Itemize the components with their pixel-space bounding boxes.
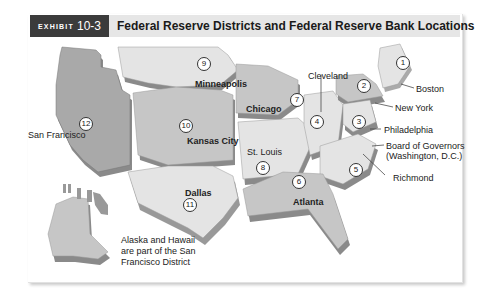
city-label-kansas-city: Kansas City xyxy=(187,136,239,146)
board-line-2: (Washington, D.C.) xyxy=(386,151,465,161)
city-label-new-york: New York xyxy=(395,103,433,113)
city-label-chicago: Chicago xyxy=(246,104,282,114)
city-label-cleveland: Cleveland xyxy=(308,71,348,81)
district-11-marker: 11 xyxy=(183,198,197,212)
board-line-1: Board of Governors xyxy=(386,141,465,151)
city-label-st-louis: St. Louis xyxy=(247,147,282,157)
city-label-minneapolis: Minneapolis xyxy=(195,79,247,89)
district-8-marker: 8 xyxy=(256,161,270,175)
city-label-atlanta: Atlanta xyxy=(293,197,324,207)
board-of-governors-label: Board of Governors (Washington, D.C.) xyxy=(386,141,465,161)
city-label-richmond: Richmond xyxy=(393,173,434,183)
district-12-marker: 12 xyxy=(79,117,93,131)
district-5-marker: 5 xyxy=(349,163,363,177)
district-2-marker: 2 xyxy=(357,79,371,93)
district-1-marker: 1 xyxy=(396,56,410,70)
city-label-boston: Boston xyxy=(416,84,444,94)
district-10-marker: 10 xyxy=(179,119,193,133)
district-3-marker: 3 xyxy=(352,115,366,129)
city-label-philadelphia: Philadelphia xyxy=(384,125,433,135)
district-12-region xyxy=(56,47,132,177)
city-label-dallas: Dallas xyxy=(185,188,212,198)
district-4-marker: 4 xyxy=(310,115,324,129)
city-label-san-francisco: San Francisco xyxy=(28,130,86,140)
district-6-marker: 6 xyxy=(292,175,306,189)
district-7-marker: 7 xyxy=(290,93,304,107)
district-9-marker: 9 xyxy=(197,57,211,71)
alaska-hawaii-note: Alaska and Hawaii are part of the San Fr… xyxy=(121,235,201,268)
